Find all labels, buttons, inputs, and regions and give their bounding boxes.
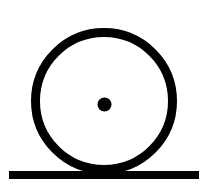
wheel-diagram-svg — [0, 0, 209, 194]
ground-line — [9, 171, 199, 179]
figure-canvas — [0, 0, 209, 194]
hub-center-dot-icon — [98, 98, 112, 112]
